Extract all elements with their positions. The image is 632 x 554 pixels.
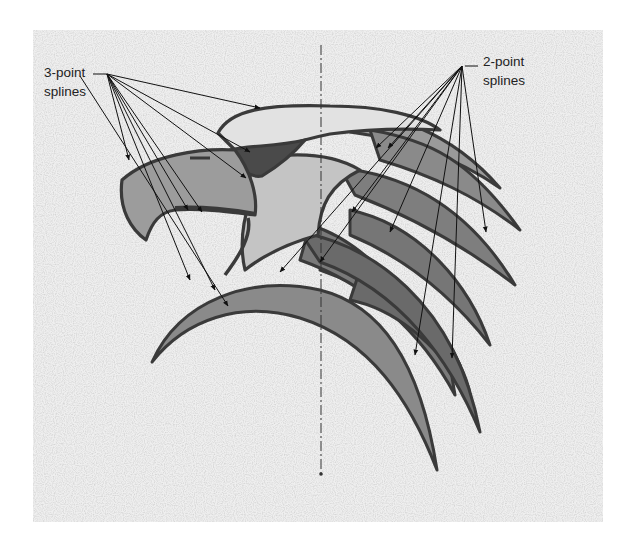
- label-2-point-line2: splines: [483, 71, 525, 90]
- sketch-canvas: 3-point splines 2-point splines: [0, 0, 632, 554]
- label-2-point-splines: 2-point splines: [483, 52, 525, 90]
- label-3-point-splines: 3-point splines: [44, 63, 86, 101]
- label-2-point-line1: 2-point: [483, 52, 525, 71]
- centerline-endpoint-bottom: [319, 472, 323, 476]
- eagle-sketch: [0, 0, 632, 554]
- label-3-point-line1: 3-point: [44, 63, 86, 82]
- label-3-point-line2: splines: [44, 82, 86, 101]
